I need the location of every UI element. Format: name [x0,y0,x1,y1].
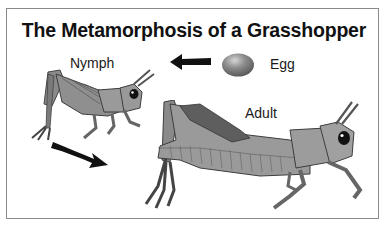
arrow-nymph-to-adult-icon [50,138,110,172]
arrow-egg-to-nymph-icon [170,52,212,72]
adult-grasshopper-icon [140,100,365,212]
egg-label: Egg [270,56,295,72]
diagram-title: The Metamorphosis of a Grasshopper [0,19,388,42]
egg-icon [221,52,257,78]
